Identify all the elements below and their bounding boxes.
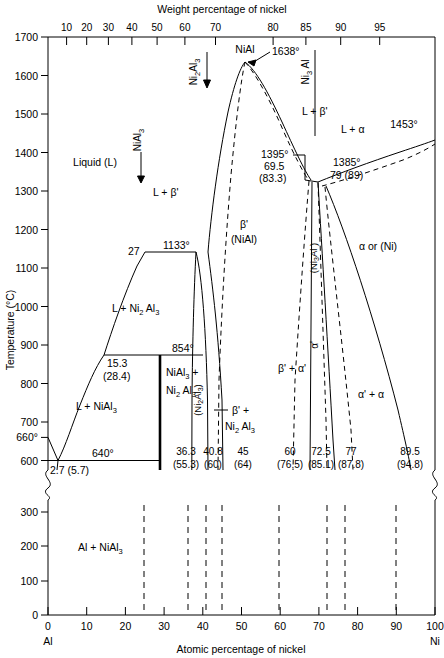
y-tick-label: 1700 xyxy=(15,31,39,43)
marker-40-8-weight: (60) xyxy=(204,459,222,470)
ni2al3-left-boundary xyxy=(192,252,196,470)
composition-markers: 36.3 (55.3) 40.8 (60) 45 (64) 60 (76.5) … xyxy=(173,446,423,470)
axis-break-right xyxy=(432,470,437,500)
bottom-tick-label: 60 xyxy=(274,620,286,632)
marker-72-5-weight: (85.1) xyxy=(308,459,334,470)
label-27-57: 2.7 (5.7) xyxy=(50,464,89,476)
label-153: 15.3 xyxy=(107,357,128,369)
marker-40-8-atomic: 40.8 xyxy=(203,446,223,457)
y-tick-label-660: 660° xyxy=(16,431,38,443)
top-tick-label: 40 xyxy=(126,22,138,33)
arrow-nial3 xyxy=(138,152,145,183)
top-tick-label: 50 xyxy=(152,22,164,33)
phase-diagram-figure: Weight percentage of nickel 10 20 30 40 xyxy=(0,0,444,658)
y-tick-label: 700 xyxy=(20,416,38,428)
label-nial3-vertical: NiAl3 xyxy=(132,129,146,152)
top-tick-label: 20 xyxy=(81,22,93,33)
label-nial3-plus: NiAl3 + xyxy=(166,366,199,381)
y-tick-label: 1100 xyxy=(15,262,38,274)
y-tick-label: 1400 xyxy=(15,147,39,159)
alpha-solvus-dashed xyxy=(325,187,353,470)
ni2al3-right-boundary xyxy=(196,252,208,470)
label-640: 640° xyxy=(92,447,114,459)
label-1133: 1133° xyxy=(163,239,190,251)
label-79: 79 (89) xyxy=(330,169,363,181)
label-beta-prime: β' xyxy=(240,218,248,230)
label-ni3al-vertical: Ni3 Al xyxy=(300,60,314,85)
bottom-tick-label: 10 xyxy=(81,620,93,632)
y-tick-labels-lower: 300 200 100 0 xyxy=(20,506,38,621)
y-tick-label: 900 xyxy=(20,339,38,351)
top-tick-label: 70 xyxy=(210,22,222,33)
top-tick-labels: 10 20 30 40 50 60 70 80 85 90 95 xyxy=(61,22,386,33)
label-beta-plus-alpha-prime: β' + α' xyxy=(278,362,306,374)
left-axis-title: Temperature (°C) xyxy=(4,290,16,371)
peritectic-1395-line xyxy=(305,180,318,182)
label-beta-plus-ni2al3: Ni2 Al3 xyxy=(225,420,255,435)
left-endmember-label: Al xyxy=(43,635,52,647)
y-tick-label: 200 xyxy=(20,540,38,552)
y-tick-marks-upper xyxy=(41,37,48,461)
top-tick-label: 85 xyxy=(300,22,312,33)
lower-plot-frame xyxy=(48,500,435,615)
arrow-ni2al3 xyxy=(204,52,211,88)
bottom-tick-marks xyxy=(48,607,435,615)
beta-right-solvus-dashed xyxy=(293,181,309,470)
label-1453: 1453° xyxy=(390,118,418,130)
top-tick-label: 80 xyxy=(268,22,280,33)
alpha-prime-left-boundary xyxy=(310,182,312,470)
marker-89-5-weight: (94.8) xyxy=(397,459,423,470)
label-1638: 1638° xyxy=(272,45,300,57)
label-alpha-prime-plus-alpha: α' + α xyxy=(358,388,384,400)
marker-77-weight: (87.8) xyxy=(338,459,364,470)
y-tick-label: 1300 xyxy=(15,185,39,197)
marker-77-atomic: 77 xyxy=(345,446,357,457)
y-tick-label: 1000 xyxy=(15,301,39,313)
label-l-plus-nial3: L + NiAl3 xyxy=(76,400,117,415)
label-ni2al3-vertical: Ni2Al3 xyxy=(188,59,202,86)
label-l-plus-ni2al3: L + Ni2 Al3 xyxy=(112,302,159,317)
bottom-tick-label: 0 xyxy=(45,620,51,632)
top-tick-label: 10 xyxy=(61,22,73,33)
label-1385: 1385° xyxy=(333,156,361,168)
alpha-prime-solvus-dashed xyxy=(318,183,327,470)
y-tick-label: 100 xyxy=(20,575,38,587)
top-axis-title: Weight percentage of nickel xyxy=(157,3,286,15)
label-284: (28.4) xyxy=(103,370,130,382)
label-1395: 1395° xyxy=(261,148,289,160)
y-tick-label: 1600 xyxy=(15,70,39,82)
bottom-tick-label: 30 xyxy=(158,620,170,632)
label-beta-plus: β' + xyxy=(232,404,249,416)
bottom-tick-label: 50 xyxy=(236,620,248,632)
marker-60-weight: (76.5) xyxy=(277,459,303,470)
al-liquidus xyxy=(48,437,58,460)
label-833: (83.3) xyxy=(259,172,286,184)
marker-36-3-weight: (55.3) xyxy=(173,459,199,470)
label-nial-paren: (NiAl) xyxy=(231,233,257,245)
top-tick-label: 60 xyxy=(179,22,191,33)
marker-45-weight: (64) xyxy=(234,459,252,470)
label-854: 854° xyxy=(172,342,194,354)
label-l-plus-alpha: L + α xyxy=(341,123,365,135)
label-alpha-prime: α' xyxy=(309,341,320,349)
bottom-axis-title: Atomic percentage of nickel xyxy=(177,643,306,655)
alpha-right-solvus xyxy=(326,186,411,470)
bottom-tick-label: 90 xyxy=(390,620,402,632)
beta-left-solvus xyxy=(208,252,223,470)
label-27: 27 xyxy=(128,245,140,257)
y-tick-label: 1200 xyxy=(15,224,39,236)
right-endmember-label: Ni xyxy=(430,635,440,647)
label-nial-peak: NiAl xyxy=(235,43,254,55)
marker-72-5-atomic: 72.5 xyxy=(311,446,331,457)
bottom-tick-label: 70 xyxy=(313,620,325,632)
y-tick-label: 800 xyxy=(20,378,38,390)
y-tick-labels-upper: 1700 1600 1500 1400 1300 1200 1100 1000 … xyxy=(15,31,39,467)
label-liquid: Liquid (L) xyxy=(73,156,117,168)
y-tick-label: 600 xyxy=(20,455,38,467)
y-tick-label: 0 xyxy=(32,609,38,621)
label-al-plus-nial3: Al + NiAl3 xyxy=(78,541,123,556)
y-tick-label: 1500 xyxy=(15,108,39,120)
marker-60-atomic: 60 xyxy=(284,446,296,457)
marker-89-5-atomic: 89.5 xyxy=(400,446,420,457)
marker-36-3-atomic: 36.3 xyxy=(176,446,196,457)
